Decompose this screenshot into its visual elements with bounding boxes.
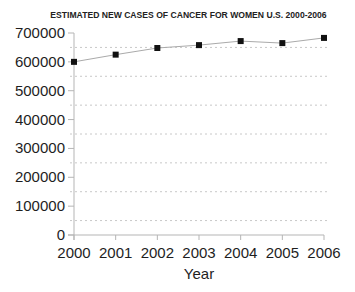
data-point-marker [321,35,327,41]
data-series [71,35,327,65]
data-point-marker [113,52,119,58]
y-tick-label: 100000 [15,197,65,214]
y-tick-label: 300000 [15,139,65,156]
y-tick-label: 0 [57,226,65,243]
data-point-marker [71,59,77,65]
y-axis-ticks: 0100000200000300000400000500000600000700… [15,24,74,243]
x-tick-label: 2004 [224,244,257,261]
series-line [74,38,324,62]
x-tick-label: 2002 [141,244,174,261]
x-axis-label: Year [184,265,214,282]
gridlines [70,47,327,220]
y-tick-label: 500000 [15,82,65,99]
data-point-marker [238,38,244,44]
y-tick-label: 400000 [15,111,65,128]
x-tick-label: 2005 [266,244,299,261]
data-point-marker [279,40,285,46]
x-tick-label: 2006 [307,244,340,261]
x-tick-label: 2001 [99,244,132,261]
y-tick-label: 600000 [15,53,65,70]
line-chart: 0100000200000300000400000500000600000700… [0,0,355,292]
y-tick-label: 700000 [15,24,65,41]
axes [68,33,324,240]
x-tick-label: 2000 [57,244,90,261]
x-axis-ticks: 2000200120022003200420052006 [57,235,340,261]
y-tick-label: 200000 [15,168,65,185]
data-point-marker [154,45,160,51]
x-tick-label: 2003 [182,244,215,261]
data-point-marker [196,42,202,48]
